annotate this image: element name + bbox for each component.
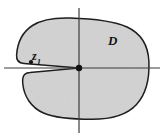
point-label-z1: z1	[32, 50, 41, 65]
region-D-fill	[17, 18, 149, 119]
slit-domain-figure: D z1	[0, 0, 164, 139]
point-label-z1-subscript: 1	[37, 57, 41, 67]
slit-tip-marker	[76, 65, 82, 71]
region-label-D: D	[108, 34, 117, 47]
point-label-z1-base: z	[32, 49, 37, 63]
region-D	[17, 18, 149, 119]
figure-canvas	[0, 0, 164, 139]
